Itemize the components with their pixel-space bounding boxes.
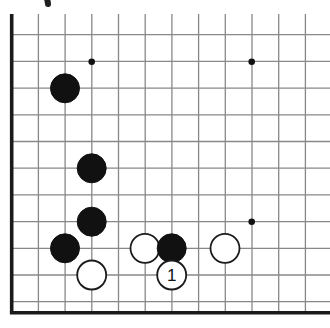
star-point [88,58,95,65]
black-stone [77,154,106,183]
black-stone [157,234,186,263]
white-stone [77,261,106,290]
white-stone [131,234,160,263]
star-point [248,58,255,65]
stone-white [211,234,240,263]
stone-black [77,154,106,183]
stone-black [51,234,80,263]
stone-black [77,207,106,236]
white-stone [211,234,240,263]
go-board-diagram: 1 [0,0,330,328]
star-point [248,218,255,225]
black-stone [51,234,80,263]
stone-black [157,234,186,263]
stone-move-number: 1 [167,266,176,285]
stone-white [131,234,160,263]
stone-white [77,261,106,290]
black-stone [51,74,80,103]
stone-black [51,74,80,103]
go-board-canvas: 1 [0,0,330,328]
stone-white-marked: 1 [157,261,186,290]
black-stone [77,207,106,236]
